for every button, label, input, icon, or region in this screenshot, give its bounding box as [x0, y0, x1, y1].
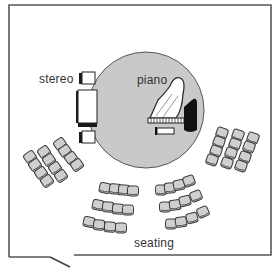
seating-group-right	[205, 126, 260, 172]
piano-label: piano	[137, 73, 167, 87]
seating-label: seating	[134, 236, 174, 250]
floor-plan	[0, 0, 280, 276]
seating-group-center-right	[156, 174, 211, 229]
seating-group-left	[23, 137, 85, 189]
seating-group-center-left	[83, 182, 139, 233]
door-icon	[50, 257, 70, 267]
stereo-label: stereo	[39, 72, 74, 86]
stereo-icon	[76, 72, 97, 143]
